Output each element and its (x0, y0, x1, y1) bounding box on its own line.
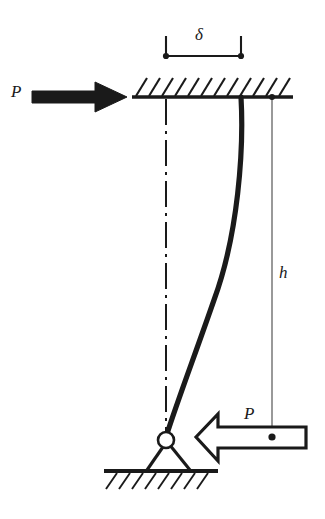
load-arrow-top-shape (32, 82, 127, 112)
pin-support-group (147, 432, 190, 470)
height-dimension-group (268, 94, 275, 441)
pin-hinge-circle (158, 432, 174, 448)
top-support-group (132, 78, 293, 97)
ground-group (104, 471, 218, 489)
column-curve (167, 97, 242, 434)
height-top-dot (269, 94, 275, 100)
deflection-label: δ (195, 25, 203, 45)
deflection-dimension-group (163, 36, 244, 59)
top-support-hatching (136, 78, 290, 96)
height-label: h (279, 263, 288, 283)
load-label-bottom: P (244, 404, 254, 424)
ground-hatching (106, 473, 208, 489)
pin-leg-right (169, 444, 190, 470)
load-label-top: P (11, 82, 21, 102)
load-arrow-top (32, 82, 127, 112)
load-application-dot (268, 433, 275, 440)
buckling-column-figure: P δ h P (0, 0, 325, 519)
deflection-right-dot (238, 53, 244, 59)
deflection-left-dot (163, 53, 169, 59)
figure-canvas (0, 0, 325, 519)
